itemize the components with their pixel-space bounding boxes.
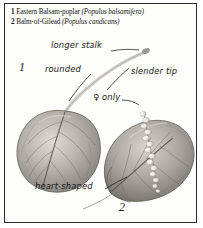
leader-longer-stalk — [111, 49, 139, 51]
illustration-plate: 1 Eastern Balsam-poplar (Populus balsami… — [4, 3, 197, 223]
annotation-slender-tip: slender tip — [131, 66, 177, 76]
annotation-longer-stalk: longer stalk — [51, 40, 102, 50]
leaf-1-balsam-poplar — [17, 110, 100, 192]
figure-marker-1: 1 — [19, 60, 25, 75]
annotation-rounded: rounded — [45, 64, 81, 74]
annotation-female-only: ♀ only — [93, 92, 120, 102]
petiole-stalk — [65, 47, 151, 112]
leader-female-only — [122, 100, 139, 105]
botanical-artwork — [5, 4, 196, 222]
leader-marker-2 — [83, 192, 115, 209]
figure-marker-2: 2 — [119, 200, 125, 215]
annotation-heart-shaped: heart-shaped — [35, 181, 93, 191]
